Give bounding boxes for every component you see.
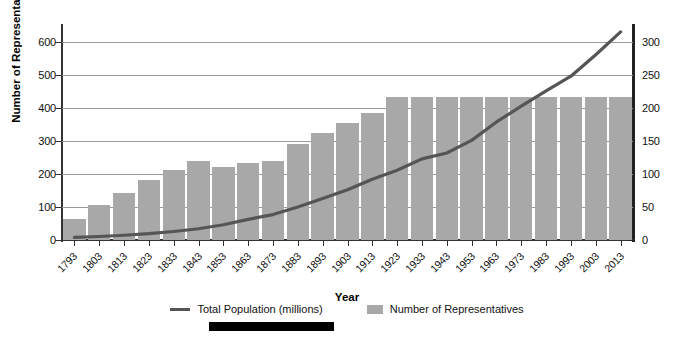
legend-item-number-of-representatives: Number of Representatives	[367, 303, 524, 315]
bar-swatch-icon	[367, 305, 383, 314]
line-swatch-icon	[170, 308, 190, 311]
legend-item-total-population: Total Population (millions)	[170, 303, 322, 315]
line-series-total-population	[0, 0, 694, 337]
legend-label-number-of-representatives: Number of Representatives	[390, 303, 524, 315]
population-line	[74, 32, 620, 238]
legend-label-total-population: Total Population (millions)	[197, 303, 322, 315]
chart-figure: Number of Representatives Population (mi…	[0, 0, 694, 337]
black-redaction-bar	[209, 322, 334, 331]
chart-legend: Total Population (millions) Number of Re…	[0, 303, 694, 315]
